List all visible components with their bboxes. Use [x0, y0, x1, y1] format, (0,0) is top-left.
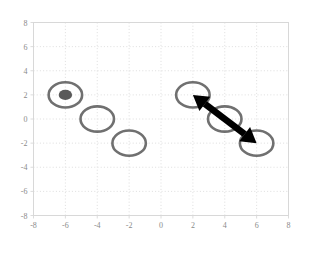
x-tick-label: 6	[255, 221, 259, 230]
figure-container: -8-6-4-202468-8-6-4-202468	[0, 0, 310, 255]
y-tick-label: -6	[21, 187, 28, 196]
scatter-plot: -8-6-4-202468-8-6-4-202468	[0, 0, 310, 255]
x-tick-label: -8	[30, 221, 37, 230]
marker-filled-circle	[59, 90, 72, 100]
y-tick-label: 6	[24, 43, 28, 52]
x-tick-label: -2	[126, 221, 133, 230]
y-tick-label: 0	[24, 115, 28, 124]
y-tick-label: -8	[21, 212, 28, 221]
x-tick-label: 2	[191, 221, 195, 230]
y-tick-label: 2	[24, 91, 28, 100]
y-tick-label: 4	[24, 67, 28, 76]
x-tick-label: 8	[287, 221, 291, 230]
x-tick-label: 4	[223, 221, 227, 230]
x-tick-label: 0	[159, 221, 163, 230]
y-tick-label: -4	[21, 163, 28, 172]
y-tick-label: -2	[21, 139, 28, 148]
x-tick-label: -6	[62, 221, 69, 230]
plot-background	[0, 0, 310, 255]
x-tick-label: -4	[94, 221, 101, 230]
y-tick-label: 8	[24, 19, 28, 28]
series-highlighted-point	[59, 90, 72, 100]
